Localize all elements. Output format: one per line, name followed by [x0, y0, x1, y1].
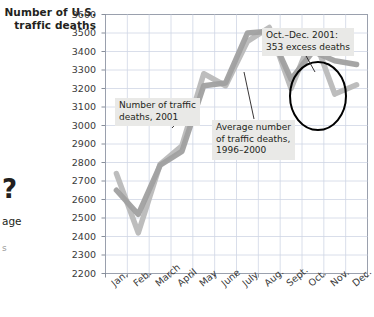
y-tick-label: 2900 — [62, 139, 96, 149]
y-tick-label: 2200 — [62, 269, 96, 279]
y-tick-label: 2600 — [62, 195, 96, 205]
y-tick-label: 3300 — [62, 65, 96, 75]
annotation-series-2001: Number of traffic deaths, 2001 — [115, 98, 200, 126]
y-tick-label: 2500 — [62, 213, 96, 223]
y-tick-label: 3000 — [62, 121, 96, 131]
y-tick-label: 2700 — [62, 176, 96, 186]
annotation-series-average: Average number of traffic deaths, 1996–2… — [212, 120, 295, 160]
y-tick-label: 3600 — [62, 10, 96, 20]
y-tick-label: 3400 — [62, 47, 96, 57]
y-tick-label: 3500 — [62, 28, 96, 38]
annotation-excess-deaths: Oct.–Dec. 2001: 353 excess deaths — [262, 28, 354, 56]
y-tick-label: 3100 — [62, 102, 96, 112]
y-tick-label: 2800 — [62, 158, 96, 168]
chart-figure: Number of U.S. traffic deaths ? age s 22… — [0, 0, 374, 317]
y-tick-label: 2300 — [62, 250, 96, 260]
y-tick-label: 3200 — [62, 84, 96, 94]
y-tick-label: 2400 — [62, 232, 96, 242]
